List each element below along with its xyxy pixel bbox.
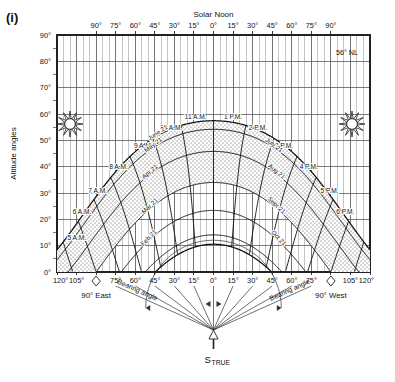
hour-label: 11 A.M.: [185, 113, 207, 120]
x-tick-label-top: 30°: [247, 21, 258, 30]
x-tick-label-top: 90°: [325, 21, 336, 30]
x-tick-label-top: 30°: [169, 21, 180, 30]
y-tick-label: 40°: [40, 162, 51, 171]
y-tick-label: 10°: [40, 241, 51, 250]
figure-label: (i): [6, 10, 18, 25]
latitude-label: 56° NL: [336, 48, 358, 57]
x-tick-label-top: 0°: [210, 21, 217, 30]
y-tick-label: 50°: [40, 136, 51, 145]
south-true-label: S: [205, 354, 211, 365]
hour-label: 7 A.M.: [88, 187, 107, 194]
x-tick-label-bottom: 0°: [210, 276, 217, 285]
hour-label: 5 P.M.: [320, 187, 338, 194]
hour-label: 4 P.M.: [300, 163, 318, 170]
south-true-sub: TRUE: [212, 359, 231, 366]
sun-path-figure: 90°75°60°45°30°15°0°15°30°45°60°75°90°12…: [0, 0, 395, 382]
x-tick-label-bottom: 15°: [188, 276, 199, 285]
hour-label: 8 A.M.: [109, 163, 128, 170]
x-tick-label-top: 15°: [227, 21, 238, 30]
y-tick-label: 80°: [40, 57, 51, 66]
hour-label: 6 A.M.: [73, 208, 92, 215]
solar-noon-label: Solar Noon: [193, 10, 233, 19]
y-tick-label: 70°: [40, 83, 51, 92]
x-tick-label-top: 75°: [110, 21, 121, 30]
x-tick-label-bottom: 105°: [69, 276, 84, 285]
cardinal-label-east: 90° East: [81, 291, 111, 300]
x-tick-label-bottom: 15°: [227, 276, 238, 285]
x-tick-label-top: 60°: [130, 21, 141, 30]
y-axis-title-group: Altitude angles: [9, 127, 18, 179]
hour-label: 2 P.M.: [249, 124, 267, 131]
hour-label: 6 P.M.: [336, 208, 354, 215]
hour-label: 5 A.M.: [67, 234, 86, 241]
hour-label: 1 P.M.: [224, 113, 242, 120]
y-tick-label: 30°: [40, 189, 51, 198]
cardinal-label-west: 90° West: [315, 291, 347, 300]
y-tick-label: 20°: [40, 215, 51, 224]
x-tick-label-top: 60°: [286, 21, 297, 30]
x-tick-label-top: 75°: [306, 21, 317, 30]
y-axis-title: Altitude angles: [9, 127, 18, 179]
x-tick-label-bottom: 120°: [359, 276, 374, 285]
sun-path-chart: 90°75°60°45°30°15°0°15°30°45°60°75°90°12…: [0, 0, 395, 382]
x-tick-label-bottom: 105°: [343, 276, 358, 285]
y-tick-label: 90°: [40, 31, 51, 40]
x-tick-label-top: 45°: [149, 21, 160, 30]
x-tick-label-top: 15°: [188, 21, 199, 30]
x-tick-label-bottom: 30°: [169, 276, 180, 285]
x-tick-label-bottom: 30°: [247, 276, 258, 285]
x-tick-label-top: 90°: [91, 21, 102, 30]
x-tick-label-top: 45°: [267, 21, 278, 30]
x-tick-label-bottom: 45°: [267, 276, 278, 285]
y-tick-label: 0°: [44, 268, 51, 277]
x-tick-label-bottom: 120°: [53, 276, 68, 285]
y-tick-label: 60°: [40, 110, 51, 119]
